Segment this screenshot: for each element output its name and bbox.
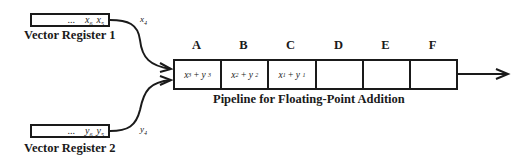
register-element: y6 (85, 125, 92, 136)
stage-b: x2 + y 2 (222, 61, 269, 88)
pipeline-title: Pipeline for Floating-Point Addition (213, 92, 405, 107)
stage-f (411, 61, 456, 88)
stage-label-b: B (220, 38, 267, 53)
stage-label-c: C (267, 38, 314, 53)
stage-label-d: D (315, 38, 362, 53)
stage-label-e: E (362, 38, 409, 53)
ellipsis: ... (68, 14, 76, 25)
ellipsis: ... (68, 125, 76, 136)
vector-register-2-contents: ...y6y5 (68, 125, 104, 138)
vector-register-1-box: ...x6x5 (30, 13, 110, 27)
stage-c: x1 + y 1 (269, 61, 316, 88)
register-element: x6 (85, 14, 92, 25)
wire-register-1 (110, 20, 171, 69)
register-element: y5 (97, 125, 104, 136)
stage-d (317, 61, 364, 88)
vector-register-1-label: Vector Register 1 (24, 28, 115, 43)
register-element: x5 (97, 14, 104, 25)
stage-label-a: A (173, 38, 220, 53)
register-2-output-label: y4 (140, 124, 147, 136)
pipeline: x3 + y 3 x2 + y 2 x1 + y 1 (173, 59, 458, 90)
stage-a: x3 + y 3 (175, 61, 222, 88)
stage-e (364, 61, 411, 88)
vector-register-1-contents: ...x6x5 (68, 14, 104, 27)
vector-register-2-label: Vector Register 2 (24, 141, 115, 156)
vector-register-2-box: ...y6y5 (30, 124, 110, 138)
register-1-output-label: x4 (140, 14, 147, 26)
stage-label-f: F (409, 38, 456, 53)
